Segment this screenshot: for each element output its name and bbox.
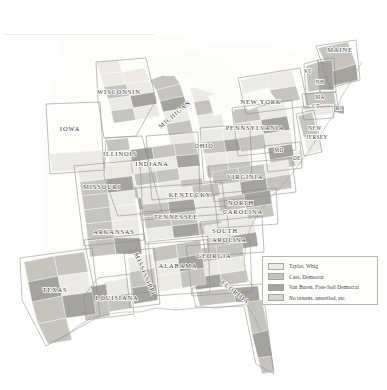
state-label-missouri: MISSOURI bbox=[83, 183, 121, 190]
legend-row-vanburen: Van Buren, Free-Soil Democrat bbox=[268, 282, 373, 293]
state-label-maine: MAINE bbox=[327, 46, 352, 53]
state-label-de: DE bbox=[293, 155, 301, 161]
legend-row-noreturns: No returns, unsettled, etc. bbox=[268, 293, 373, 304]
legend-swatch-vanburen bbox=[268, 284, 284, 291]
state-label-ri: RI bbox=[336, 105, 342, 111]
state-label-ohio: OHIO bbox=[194, 142, 214, 149]
legend-label-cass: Cass, Democrat bbox=[289, 274, 324, 280]
state-label-carolina: CAROLINA bbox=[207, 236, 247, 243]
state-label-new-york: NEW YORK bbox=[240, 98, 281, 105]
state-label-tennessee: TENNESSEE bbox=[154, 213, 198, 220]
state-label-iowa: IOWA bbox=[60, 125, 80, 132]
state-label-wisconsin: WISCONSIN bbox=[97, 88, 141, 95]
decorative-hairline bbox=[4, 34, 154, 35]
election-map: WISCONSINIOWAILLINOISMICHIGANINDIANAOHIO… bbox=[0, 0, 387, 390]
state-label-indiana: INDIANA bbox=[135, 160, 169, 167]
legend-label-taylor: Taylor, Whig bbox=[289, 263, 318, 269]
state-label-carolina: CAROLINA bbox=[223, 208, 263, 215]
state-label-virginia: VIRGINIA bbox=[227, 173, 263, 180]
state-label-vt: VT bbox=[304, 68, 312, 74]
state-label-georgia: GEORGIA bbox=[196, 252, 231, 259]
county-group-iowa bbox=[46, 104, 106, 172]
legend-row-taylor: Taylor, Whig bbox=[268, 261, 373, 272]
county-group-texas bbox=[24, 252, 96, 344]
state-label-pennsylvania: PENNSYLVANIA bbox=[226, 124, 285, 131]
legend-swatch-cass bbox=[268, 273, 284, 280]
state-label-illinois: ILLINOIS bbox=[103, 150, 137, 157]
state-label-ct: CT bbox=[312, 103, 320, 109]
state-label-new: NEW bbox=[308, 125, 322, 131]
state-label-nh: NH bbox=[316, 79, 325, 85]
legend-swatch-noreturns bbox=[268, 294, 284, 301]
state-label-jersey: JERSEY bbox=[306, 134, 328, 140]
state-label-south: SOUTH bbox=[212, 227, 238, 234]
state-label-ma: MA bbox=[315, 94, 325, 100]
state-label-kentucky: KENTUCKY bbox=[169, 191, 211, 198]
state-label-alabama: ALABAMA bbox=[159, 262, 198, 269]
state-label-texas: TEXAS bbox=[42, 286, 67, 293]
state-label-arkansas: ARKANSAS bbox=[93, 228, 135, 235]
us-county-map-svg: WISCONSINIOWAILLINOISMICHIGANINDIANAOHIO… bbox=[0, 0, 387, 390]
legend-swatch-taylor bbox=[268, 263, 284, 270]
legend-label-noreturns: No returns, unsettled, etc. bbox=[289, 295, 346, 301]
state-label-md: MD bbox=[274, 147, 284, 153]
state-label-louisiana: LOUISIANA bbox=[96, 294, 139, 301]
legend-label-vanburen: Van Buren, Free-Soil Democrat bbox=[289, 284, 359, 290]
state-label-north: NORTH bbox=[228, 199, 254, 206]
legend-row-cass: Cass, Democrat bbox=[268, 272, 373, 283]
map-legend: Taylor, Whig Cass, Democrat Van Buren, F… bbox=[262, 256, 378, 305]
